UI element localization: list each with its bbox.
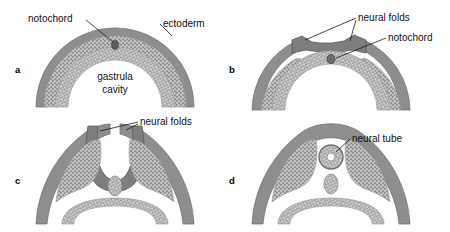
panel-c-notochord	[108, 176, 122, 196]
neurulation-figure: notochord ectoderm gastrula cavity neura…	[0, 0, 450, 232]
panel-b	[252, 18, 410, 110]
panel-c-endoderm	[62, 198, 168, 224]
label-ectoderm-a: ectoderm	[163, 18, 205, 29]
label-neural-tube-d: neural tube	[352, 133, 402, 144]
label-gastrula-cavity-line1: gastrula	[97, 71, 133, 82]
panel-d-endoderm	[278, 198, 384, 224]
panel-letter-c: c	[15, 175, 20, 186]
figure-canvas: notochord ectoderm gastrula cavity neura…	[0, 0, 450, 232]
label-neural-folds-b: neural folds	[358, 12, 410, 23]
panel-d-neural-tube-lumen	[327, 153, 335, 161]
panel-b-neural-folds-leader-left	[305, 18, 356, 40]
panel-d-notochord	[324, 174, 338, 194]
label-notochord-b: notochord	[388, 32, 432, 43]
panel-letter-b: b	[229, 64, 235, 75]
label-neural-folds-c: neural folds	[140, 116, 192, 127]
panel-letter-a: a	[15, 64, 21, 75]
panel-letter-d: d	[229, 175, 235, 186]
panel-c	[36, 122, 194, 224]
label-notochord-a: notochord	[28, 13, 72, 24]
label-gastrula-cavity-line2: cavity	[102, 84, 128, 95]
panel-b-notochord	[327, 54, 335, 63]
